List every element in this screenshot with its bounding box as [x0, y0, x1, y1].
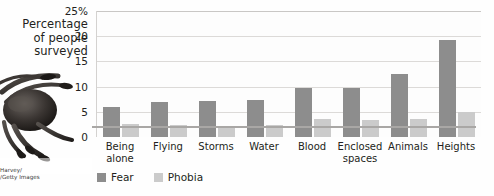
- x-axis-label-line: Storms: [192, 141, 240, 153]
- bar-groups: [97, 11, 481, 137]
- x-axis-label-line: spaces: [336, 153, 384, 165]
- spider-illustration: [0, 62, 92, 174]
- bar-phobia-animals[interactable]: [410, 119, 427, 137]
- x-axis-labels: BeingaloneFlyingStormsWaterBloodEnclosed…: [96, 141, 480, 167]
- y-axis-tick-0: 0: [62, 131, 88, 143]
- chart-figure: Percentage of people surveyed: [0, 0, 494, 196]
- bar-group: [193, 11, 241, 137]
- bar-phobia-heights[interactable]: [458, 112, 475, 137]
- legend-item-fear[interactable]: Fear: [97, 171, 134, 183]
- y-axis-tick-10: 10: [62, 81, 88, 93]
- bar-phobia-blood[interactable]: [314, 119, 331, 137]
- x-axis-label-being-alone: Beingalone: [96, 141, 144, 167]
- y-axis-tick-20: 20: [62, 30, 88, 42]
- bar-fear-water[interactable]: [247, 100, 264, 137]
- y-axis-tick-15: 15: [62, 55, 88, 67]
- bar-group: [289, 11, 337, 137]
- bar-fear-enclosed-spaces[interactable]: [343, 88, 360, 137]
- bar-phobia-storms[interactable]: [218, 126, 235, 137]
- x-axis-label-flying: Flying: [144, 141, 192, 167]
- bar-group: [241, 11, 289, 137]
- bar-group: [145, 11, 193, 137]
- x-axis-label-line: alone: [96, 153, 144, 165]
- x-axis-label-line: Animals: [384, 141, 432, 153]
- x-axis-label-line: Enclosed: [336, 141, 384, 153]
- legend-item-phobia[interactable]: Phobia: [154, 171, 203, 183]
- bar-group: [97, 11, 145, 137]
- tarantula-spider-photo: [0, 62, 92, 174]
- x-axis-label-water: Water: [240, 141, 288, 167]
- x-axis-label-line: Blood: [288, 141, 336, 153]
- bar-group: [433, 11, 481, 137]
- bar-phobia-enclosed-spaces[interactable]: [362, 120, 379, 137]
- photo-credit: Harvey/ /Getty Images: [0, 167, 88, 181]
- bar-fear-flying[interactable]: [151, 102, 168, 137]
- bar-fear-being-alone[interactable]: [103, 107, 120, 137]
- y-axis-tick-25: 25%: [62, 5, 88, 17]
- x-axis-label-heights: Heights: [432, 141, 480, 167]
- x-axis-label-enclosed-spaces: Enclosedspaces: [336, 141, 384, 167]
- y-axis-tick-5: 5: [62, 106, 88, 118]
- chart-legend: FearPhobia: [97, 171, 216, 183]
- bar-fear-storms[interactable]: [199, 101, 216, 137]
- photo-credit-line-1: Harvey/: [0, 167, 88, 174]
- x-axis-label-blood: Blood: [288, 141, 336, 167]
- x-axis-label-line: Flying: [144, 141, 192, 153]
- legend-swatch-fear-icon: [97, 173, 106, 182]
- bar-group: [385, 11, 433, 137]
- photo-credit-line-2: /Getty Images: [0, 174, 88, 181]
- plot-area: [96, 11, 481, 137]
- legend-label: Phobia: [168, 171, 203, 183]
- bar-fear-blood[interactable]: [295, 88, 312, 137]
- legend-swatch-phobia-icon: [154, 173, 163, 182]
- x-axis-label-line: Being: [96, 141, 144, 153]
- x-axis-label-line: Heights: [432, 141, 480, 153]
- legend-label: Fear: [111, 171, 134, 183]
- bar-group: [337, 11, 385, 137]
- x-axis-label-line: Water: [240, 141, 288, 153]
- x-axis-label-animals: Animals: [384, 141, 432, 167]
- bar-fear-heights[interactable]: [439, 40, 456, 137]
- x-axis-baseline: [92, 126, 476, 128]
- x-axis-label-storms: Storms: [192, 141, 240, 167]
